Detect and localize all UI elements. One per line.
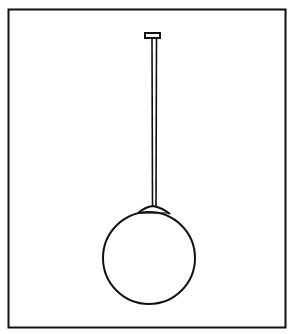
globe-shade-icon [103,206,195,304]
ceiling-canopy-icon [145,33,160,38]
pendant-lamp-illustration [0,0,289,334]
rod-icon [152,38,157,206]
frame-border [9,10,286,328]
